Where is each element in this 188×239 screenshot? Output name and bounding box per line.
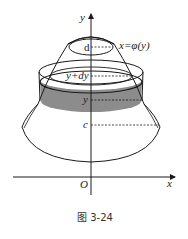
origin-label: O (80, 178, 88, 190)
y-plus-dy-label: y+dy (65, 69, 89, 81)
solid-of-revolution-diagram: y x O d x=φ(y) y+dy y c 图 3-24 (0, 0, 188, 239)
y-axis-label: y (79, 11, 85, 23)
figure-caption: 图 3-24 (77, 212, 113, 223)
y-level-label: y (82, 93, 88, 105)
curve-equation-label: x=φ(y) (118, 39, 150, 52)
d-label: d (84, 41, 90, 53)
x-axis-label: x (166, 177, 172, 189)
c-label: c (83, 118, 88, 130)
